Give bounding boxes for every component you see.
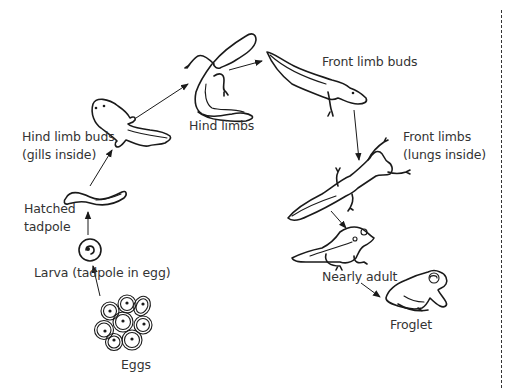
label-front-limb-buds: Front limb buds bbox=[322, 53, 417, 70]
label-hind-limbs: Hind limbs bbox=[189, 117, 254, 134]
arrow-front-limbs-to-nearly-adult bbox=[331, 211, 346, 228]
arrow-nearly-adult-to-froglet bbox=[361, 283, 380, 297]
label-froglet: Froglet bbox=[390, 316, 432, 333]
eggs-illustration bbox=[95, 294, 154, 351]
larva-illustration bbox=[79, 239, 101, 261]
label-larva: Larva (tadpole in egg) bbox=[34, 264, 171, 281]
label-front-limbs-line1: Front limbs bbox=[403, 128, 471, 145]
hind-limbs-tadpole-illustration bbox=[185, 34, 256, 121]
label-hatched-line2: tadpole bbox=[24, 218, 71, 235]
frog-life-cycle-diagram: Eggs Larva (tadpole in egg) Hatched tadp… bbox=[0, 0, 508, 388]
label-nearly-adult: Nearly adult bbox=[322, 268, 397, 285]
arrow-hind-limbs-to-front-limb-buds bbox=[229, 61, 262, 70]
arrow-front-limb-buds-to-front-limbs bbox=[354, 110, 359, 160]
label-front-limbs-line2: (lungs inside) bbox=[403, 146, 486, 163]
front-limbs-tadpole-illustration bbox=[288, 138, 410, 220]
nearly-adult-illustration bbox=[292, 227, 374, 270]
arrow-hind-limb-buds-to-hind-limbs bbox=[136, 84, 188, 118]
label-hatched-line1: Hatched bbox=[24, 200, 76, 217]
label-hind-limb-buds-line1: Hind limb buds bbox=[22, 128, 115, 145]
label-eggs: Eggs bbox=[121, 356, 151, 373]
dashed-divider-line bbox=[501, 10, 502, 388]
label-hind-limb-buds-line2: (gills inside) bbox=[22, 146, 96, 163]
